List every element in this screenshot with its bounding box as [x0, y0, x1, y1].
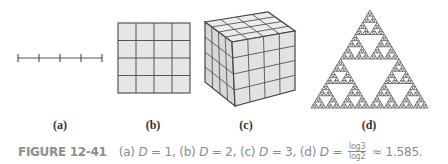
caption-var-c: D: [259, 145, 268, 159]
line-segment-panel: [18, 54, 102, 62]
caption-val-b: = 2,: [208, 145, 240, 159]
caption-part-d: (d): [300, 145, 320, 159]
sierpinski-triangle-panel: [311, 10, 428, 108]
caption-part-b: (b): [179, 145, 199, 159]
figure-graphics: [0, 0, 448, 164]
caption-part-a: (a): [119, 145, 139, 159]
log-fraction: log3log2: [348, 142, 367, 161]
figure: (a) (b) (c) (d) FIGURE 12-41(a) D = 1, (…: [0, 0, 448, 164]
fraction-denominator: log2: [348, 152, 367, 161]
caption-val-c: = 3,: [268, 145, 300, 159]
figure-caption: FIGURE 12-41(a) D = 1, (b) D = 2, (c) D …: [18, 143, 422, 162]
cube-panel: [205, 12, 295, 106]
square-grid-panel: [118, 23, 190, 93]
panel-label-b: (b): [146, 118, 161, 133]
caption-eq-d: =: [329, 145, 346, 159]
panel-label-a: (a): [53, 118, 67, 133]
panel-label-d: (d): [362, 118, 377, 133]
figure-number: FIGURE 12-41: [18, 145, 107, 159]
fraction-numerator: log3: [348, 142, 367, 152]
caption-part-c: (c): [240, 145, 259, 159]
caption-var-b: D: [199, 145, 208, 159]
caption-approx: ≈ 1.585.: [368, 145, 422, 159]
panel-label-c: (c): [239, 118, 252, 133]
caption-var-d: D: [320, 145, 329, 159]
caption-val-a: = 1,: [147, 145, 179, 159]
